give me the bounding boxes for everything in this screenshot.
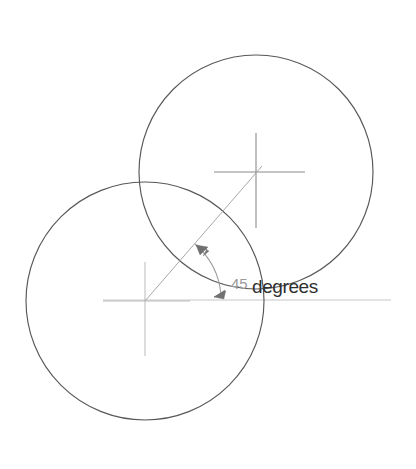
paper-background: [0, 0, 416, 469]
dimension-unit-label: degrees: [252, 276, 318, 297]
technical-drawing-svg: 45 degrees: [0, 0, 416, 469]
dimension-value: 45: [231, 275, 247, 292]
drawing-canvas: 45 degrees: [0, 0, 416, 469]
